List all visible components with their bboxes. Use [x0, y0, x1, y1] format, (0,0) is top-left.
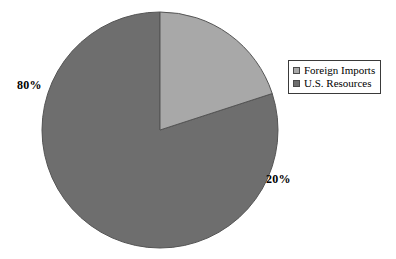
chart-legend: Foreign Imports U.S. Resources — [288, 60, 381, 94]
slice-label-20-percent: 20% — [266, 172, 291, 187]
legend-swatch-icon-foreign-imports — [293, 67, 300, 74]
legend-swatch-icon-us-resources — [293, 80, 300, 87]
legend-label-us-resources: U.S. Resources — [304, 77, 372, 90]
pie-chart-canvas — [0, 0, 396, 259]
legend-item-us-resources[interactable]: U.S. Resources — [293, 77, 375, 90]
legend-item-foreign-imports[interactable]: Foreign Imports — [293, 64, 375, 77]
legend-label-foreign-imports: Foreign Imports — [304, 64, 375, 77]
slice-label-80-percent: 80% — [17, 78, 42, 93]
pie-chart: 80% 20% Foreign Imports U.S. Resources — [0, 0, 396, 259]
